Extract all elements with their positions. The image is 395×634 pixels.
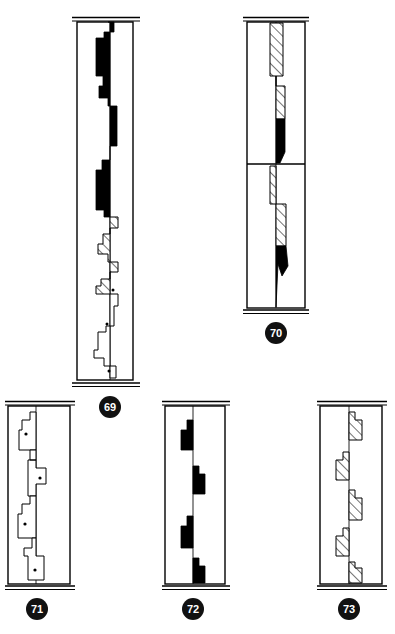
figure-69-drawing: [70, 14, 142, 392]
top-cap: [243, 18, 309, 22]
dotted-block: [28, 450, 46, 496]
bottom-cap: [5, 586, 75, 590]
figure-70-hatched-lower: [270, 166, 286, 246]
top-cap: [72, 18, 140, 22]
dotted-block: [19, 412, 36, 450]
top-cap: [162, 402, 230, 406]
solid-block: [193, 466, 205, 494]
figure-73: 73: [314, 398, 390, 594]
figure-70-solid-lower: [276, 246, 288, 307]
figure-70-drawing: [240, 14, 312, 320]
solid-block: [181, 516, 193, 548]
hatched-block: [349, 412, 362, 440]
dot-marker: [24, 432, 27, 435]
top-cap: [5, 402, 75, 406]
bottom-cap: [243, 310, 309, 314]
top-cap: [317, 402, 387, 406]
dot-marker: [108, 370, 111, 373]
figure-72: 72: [159, 398, 233, 594]
hatched-block: [336, 452, 349, 480]
solid-block: [181, 420, 193, 450]
bottom-cap: [72, 383, 140, 387]
figure-69-solid-region: [96, 22, 117, 217]
dotted-block: [18, 496, 36, 538]
figure-73-label: 73: [338, 598, 360, 620]
figure-69-dotted-region: [94, 289, 118, 379]
solid-block: [193, 558, 205, 583]
figure-72-label: 72: [182, 598, 204, 620]
dot-marker: [106, 323, 109, 326]
figure-70-hatched-upper: [270, 23, 285, 119]
hatched-block: [349, 490, 362, 520]
dot-marker: [112, 289, 115, 292]
figure-70-label: 70: [265, 322, 287, 344]
figure-73-drawing: [314, 398, 390, 594]
figure-71-dotted-blocks: [18, 412, 46, 580]
dotted-block: [24, 538, 44, 580]
figure-72-frame: [165, 406, 225, 584]
figure-71-drawing: [2, 398, 78, 594]
dot-marker: [23, 522, 26, 525]
figure-70-solid-upper: [276, 119, 285, 163]
hatched-block: [349, 562, 362, 583]
figure-71: 71: [2, 398, 78, 594]
figure-72-drawing: [159, 398, 233, 594]
hatched-block: [336, 528, 349, 556]
figure-plate: 69: [0, 0, 395, 634]
figure-69-hatched-region: [96, 217, 118, 294]
dot-marker: [33, 568, 36, 571]
dot-marker: [38, 476, 41, 479]
bottom-cap: [162, 586, 230, 590]
bottom-cap: [317, 586, 387, 590]
figure-70: 70: [240, 14, 312, 320]
figure-69-label: 69: [99, 396, 121, 418]
figure-71-label: 71: [26, 598, 48, 620]
figure-69: 69: [70, 14, 142, 392]
